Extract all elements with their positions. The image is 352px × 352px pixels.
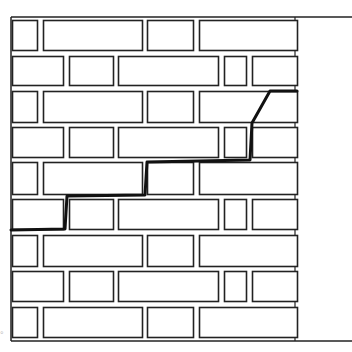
brick [13, 200, 64, 230]
brick [253, 272, 298, 302]
brick [119, 128, 219, 158]
wall-drawing [0, 0, 352, 352]
brick [148, 308, 194, 338]
brick [200, 308, 298, 338]
brick [148, 163, 194, 195]
brick [13, 21, 38, 51]
brick [253, 128, 298, 158]
brick [13, 236, 38, 267]
brick [119, 200, 219, 230]
brick [13, 57, 64, 86]
brick [148, 236, 194, 267]
brick [119, 57, 219, 86]
brick [225, 57, 247, 86]
brick [148, 21, 194, 51]
brick [225, 128, 247, 158]
brick [225, 200, 247, 230]
brick [253, 57, 298, 86]
brick [70, 272, 114, 302]
brick [200, 21, 298, 51]
brick [70, 57, 114, 86]
brick [13, 308, 38, 338]
brick [44, 236, 143, 267]
brick [148, 92, 194, 123]
brick [13, 272, 64, 302]
brick [13, 163, 38, 195]
brick [70, 200, 114, 230]
brick [70, 128, 114, 158]
brick [44, 163, 143, 195]
brick [225, 272, 247, 302]
brick [200, 236, 298, 267]
brick [13, 92, 38, 123]
brick [119, 272, 219, 302]
brick [253, 200, 298, 230]
brick [200, 163, 298, 195]
brick [44, 21, 143, 51]
brick [44, 92, 143, 123]
corner-mark: ° [0, 330, 4, 340]
brick [13, 128, 64, 158]
brick-wall-diagram [0, 0, 352, 352]
brick [200, 92, 298, 123]
brick [44, 308, 143, 338]
